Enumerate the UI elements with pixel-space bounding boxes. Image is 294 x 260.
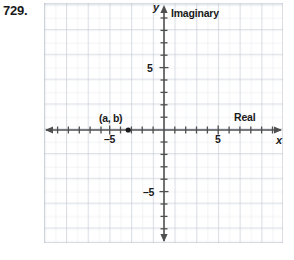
x-tick-label-minus-5: –5: [104, 134, 115, 145]
y-tick-label-minus-5: –5: [143, 187, 154, 198]
y-axis-label-imaginary: Imaginary: [171, 8, 219, 19]
x-axis-variable-label: x: [276, 135, 282, 146]
y-tick-label-5: 5: [147, 63, 153, 74]
coordinate-plane: [44, 3, 283, 243]
y-axis-arrow-down: [160, 234, 167, 242]
x-axis-arrow-left: [45, 126, 53, 133]
y-axis-arrow-up: [160, 5, 167, 13]
x-axis-arrow-right: [274, 126, 282, 133]
data-point-label-ab: (a, b): [99, 113, 122, 124]
data-point-ab: [126, 127, 131, 132]
figure-729: 729.: [0, 0, 294, 260]
x-tick-label-5: 5: [215, 134, 221, 145]
y-axis-variable-label: y: [153, 2, 159, 13]
x-axis-label-real: Real: [234, 112, 255, 123]
axes: [44, 3, 283, 243]
problem-number: 729.: [3, 4, 28, 17]
